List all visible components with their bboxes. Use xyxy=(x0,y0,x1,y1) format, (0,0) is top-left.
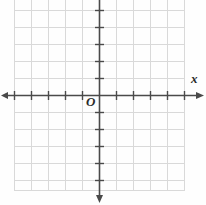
coordinate-grid-svg xyxy=(0,0,206,205)
origin-label: O xyxy=(86,95,95,108)
y-axis-bottom-arrow-icon xyxy=(96,195,103,203)
x-axis-label: x xyxy=(191,72,198,85)
x-axis-right-arrow-icon xyxy=(196,92,204,99)
coordinate-plane-figure: O x xyxy=(0,0,206,205)
x-axis-left-arrow-icon xyxy=(1,92,8,99)
